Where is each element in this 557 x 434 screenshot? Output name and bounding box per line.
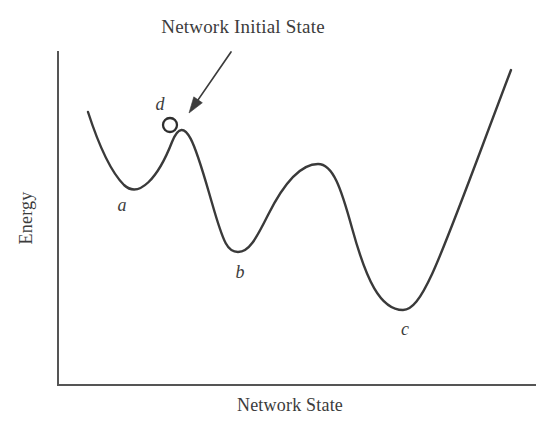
state-label-a: a <box>118 195 127 215</box>
callout-arrow-head-icon <box>189 97 202 113</box>
callout-arrow-line <box>196 52 231 103</box>
y-axis-label: Energy <box>16 192 36 245</box>
x-axis-label: Network State <box>237 395 343 415</box>
state-label-c: c <box>401 319 409 339</box>
energy-landscape-svg: Network Initial State Network State Ener… <box>0 0 557 434</box>
energy-landscape-figure: Network Initial State Network State Ener… <box>0 0 557 434</box>
energy-curve <box>88 70 511 310</box>
state-label-b: b <box>236 262 245 282</box>
initial-state-marker-icon <box>163 118 177 132</box>
callout-title: Network Initial State <box>161 16 325 37</box>
state-label-d: d <box>156 94 166 114</box>
